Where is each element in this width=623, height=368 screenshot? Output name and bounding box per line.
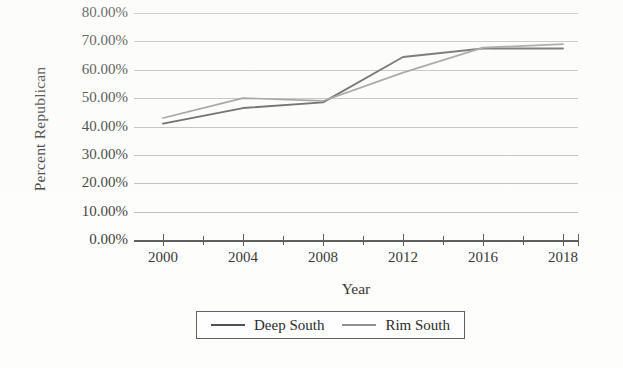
y-axis-tick-label: 10.00%	[82, 204, 128, 219]
x-axis-tick-label: 2008	[288, 249, 358, 266]
series-lines	[134, 13, 578, 240]
x-axis-minor-tick-mark	[443, 236, 444, 245]
y-axis-tick-label: 80.00%	[82, 5, 128, 20]
x-axis-tick-mark	[323, 234, 324, 246]
x-axis-minor-tick-mark	[203, 236, 204, 245]
x-axis-tick-mark	[483, 234, 484, 246]
x-axis-tick-label: 2012	[368, 249, 438, 266]
legend-label: Rim South	[385, 317, 450, 334]
legend-line-swatch	[342, 324, 376, 326]
x-axis-tick-label: 2018	[528, 249, 598, 266]
legend-line-swatch	[211, 324, 245, 326]
x-axis-minor-tick-mark	[523, 236, 524, 245]
legend-item: Deep South	[211, 317, 324, 334]
plot-area	[134, 13, 578, 240]
x-axis-title: Year	[134, 280, 578, 298]
y-axis-tick-label: 0.00%	[89, 232, 128, 247]
x-axis-tick-mark	[403, 234, 404, 246]
y-axis-tick-label: 50.00%	[82, 90, 128, 105]
x-axis-tick-mark	[163, 234, 164, 246]
y-axis-tick-label: 40.00%	[82, 119, 128, 134]
x-axis-tick-label: 2004	[208, 249, 278, 266]
x-axis-tick-mark	[563, 234, 564, 246]
x-axis-line	[134, 240, 578, 242]
x-axis-tick-mark	[243, 234, 244, 246]
y-axis-tick-labels: 80.00%70.00%60.00%50.00%40.00%30.00%20.0…	[42, 0, 128, 368]
x-axis-tick-label: 2000	[128, 249, 198, 266]
x-axis-minor-tick-mark	[283, 236, 284, 245]
chart-figure: Percent Republican 80.00%70.00%60.00%50.…	[0, 0, 623, 368]
y-axis-tick-label: 70.00%	[82, 33, 128, 48]
y-axis-tick-label: 60.00%	[82, 62, 128, 77]
y-axis-tick-label: 30.00%	[82, 147, 128, 162]
x-axis-minor-tick-mark	[363, 236, 364, 245]
series-line	[163, 44, 563, 118]
legend-label: Deep South	[254, 317, 324, 334]
x-axis-tick-label: 2016	[448, 249, 518, 266]
x-axis-end-tick-mark	[578, 234, 579, 246]
y-axis-tick-label: 20.00%	[82, 175, 128, 190]
chart-legend: Deep SouthRim South	[196, 311, 465, 339]
legend-item: Rim South	[342, 317, 450, 334]
